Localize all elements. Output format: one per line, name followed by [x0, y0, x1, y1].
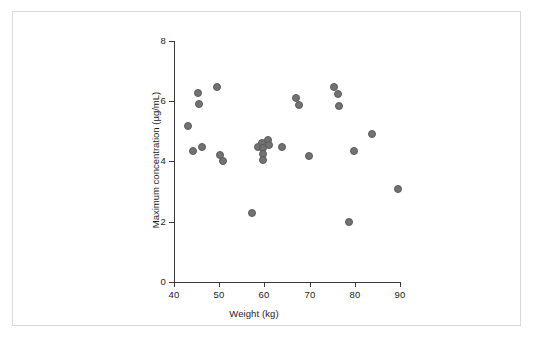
data-point	[184, 122, 192, 130]
y-axis-title: Maximum concentration (µg/mL)	[150, 40, 161, 280]
data-point	[213, 83, 221, 91]
data-point	[194, 89, 202, 97]
x-axis-line	[174, 282, 401, 283]
data-point	[305, 152, 313, 160]
x-axis-title: Weight (kg)	[229, 308, 279, 319]
y-tick-4	[169, 161, 174, 162]
x-tick-label-40: 40	[161, 289, 187, 300]
data-point	[335, 102, 343, 110]
x-tick-70	[310, 282, 311, 287]
screenshot-page: 8 6 4 2 0 40 50 60 70 80 90 Weight (kg) …	[0, 0, 537, 346]
y-tick-6	[169, 101, 174, 102]
y-axis-title-wrap: Maximum concentration (µg/mL)	[139, 40, 153, 280]
x-tick-40	[174, 282, 175, 287]
x-tick-60	[264, 282, 265, 287]
data-point	[368, 130, 376, 138]
data-point	[394, 185, 402, 193]
data-point	[198, 143, 206, 151]
data-point	[195, 100, 203, 108]
data-point	[265, 141, 273, 149]
data-point	[278, 143, 286, 151]
data-point	[219, 157, 227, 165]
x-tick-label-70: 70	[297, 289, 323, 300]
y-axis-line	[174, 41, 175, 283]
x-tick-90	[400, 282, 401, 287]
x-tick-label-80: 80	[342, 289, 368, 300]
x-tick-label-60: 60	[251, 289, 277, 300]
x-tick-label-50: 50	[206, 289, 232, 300]
x-tick-50	[219, 282, 220, 287]
data-point	[350, 147, 358, 155]
x-tick-80	[355, 282, 356, 287]
scatter-plot: 8 6 4 2 0 40 50 60 70 80 90 Weight (kg) …	[0, 0, 537, 346]
data-point	[295, 101, 303, 109]
data-point	[259, 156, 267, 164]
data-point	[334, 90, 342, 98]
y-tick-8	[169, 41, 174, 42]
data-point	[189, 147, 197, 155]
y-tick-2	[169, 222, 174, 223]
x-tick-label-90: 90	[387, 289, 413, 300]
data-point	[248, 209, 256, 217]
data-point	[345, 218, 353, 226]
